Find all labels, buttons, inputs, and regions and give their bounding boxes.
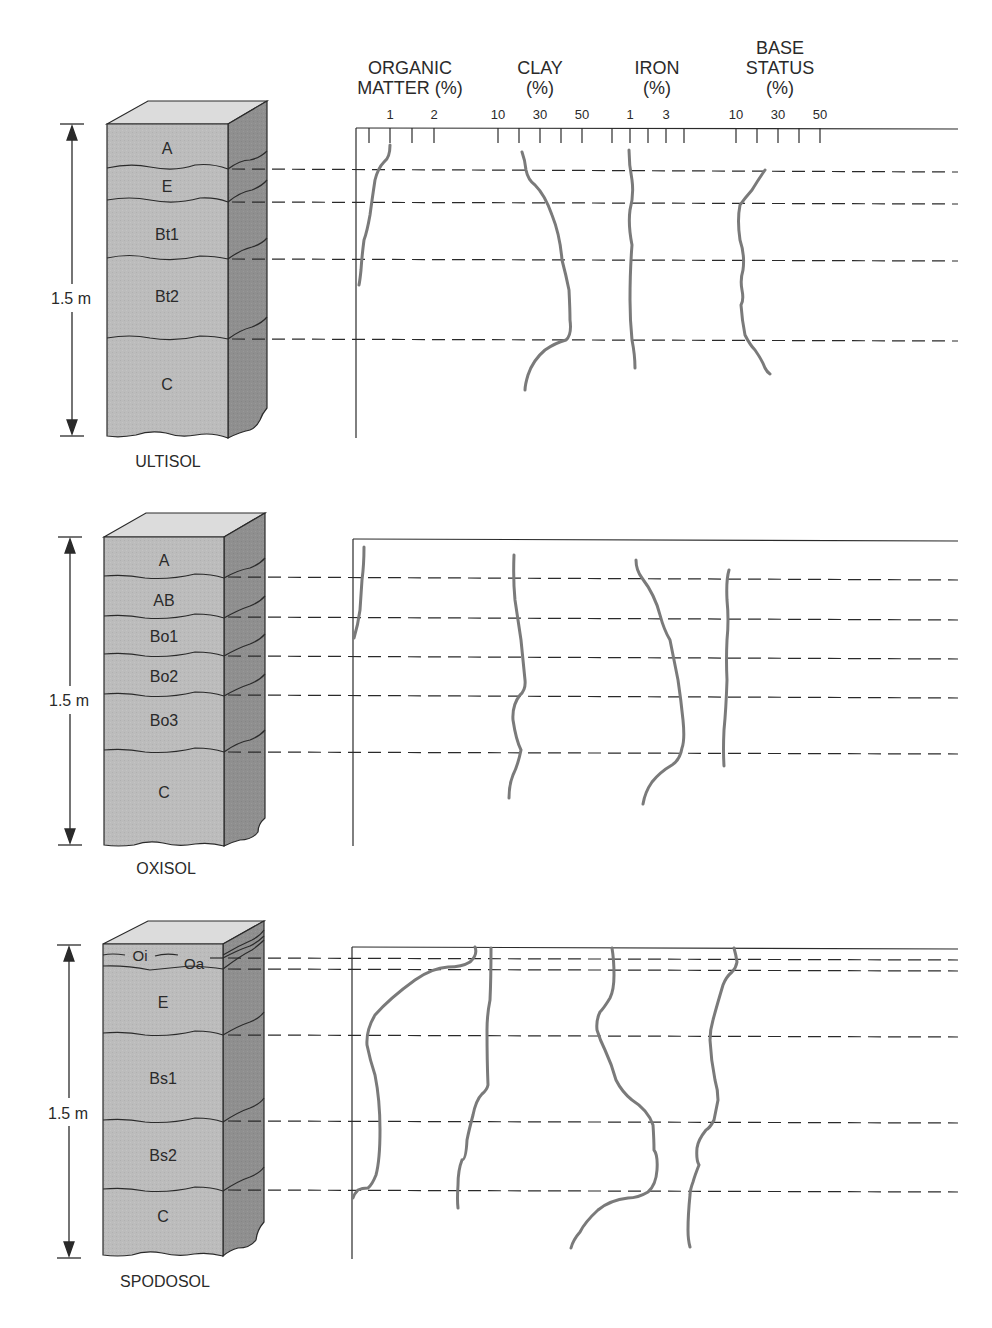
depth-label: 1.5 m [51,290,91,307]
horizon-dashed-lines [232,169,958,341]
depth-label: 1.5 m [49,692,89,709]
curve-iron [629,150,635,368]
curve-organic-matter [354,547,364,638]
property-curves [359,145,770,390]
horizon-label: Oi [133,947,148,964]
horizon-label: Bt1 [155,226,179,243]
horizon-label: Bo3 [150,712,179,729]
side-face [223,921,264,1256]
curve-base-status [688,948,737,1247]
diagram-canvas: A E Bt1 Bt2 C 1.5 m ULTISOL [0,0,992,1328]
ultisol-profile: A E Bt1 Bt2 C 1.5 m ULTISOL [51,101,958,470]
oxisol-profile: A AB Bo1 Bo2 Bo3 C 1.5 m OXISOL [49,513,958,877]
curve-iron [636,560,684,804]
curve-clay [522,152,571,390]
horizon-label: C [158,784,170,801]
depth-scale-arrow [60,124,84,436]
chart-axes [356,128,958,438]
horizon-label: A [159,552,170,569]
curve-base-status [724,570,730,766]
horizon-dashed-lines [228,958,958,1192]
spodosol-profile: Oi Oa E Bs1 Bs2 C 1.5 m SPODOSOL [48,921,958,1290]
horizon-label: C [161,376,173,393]
depth-label: 1.5 m [48,1105,88,1122]
horizon-dashed-lines [228,577,958,754]
curve-clay [509,555,525,798]
depth-scale-arrow [58,537,82,845]
curve-clay [458,948,492,1208]
chart-axes [352,947,958,1259]
horizon-label: C [157,1208,169,1225]
curve-organic-matter [353,947,476,1198]
property-curves [354,547,729,804]
profile-name: SPODOSOL [120,1273,210,1290]
curve-base-status [739,170,771,374]
side-face [228,101,267,438]
property-curves [353,947,737,1248]
horizon-label: E [162,178,173,195]
horizon-label: AB [153,592,174,609]
horizon-label: Bo1 [150,628,179,645]
profile-name: OXISOL [136,860,196,877]
horizon-label: Bo2 [150,668,179,685]
soil-profiles-diagram: ORGANIC MATTER (%) CLAY (%) IRON (%) BAS… [0,0,992,1328]
horizon-label: Oa [184,955,205,972]
horizon-label: Bt2 [155,288,179,305]
horizon-label: E [158,994,169,1011]
depth-scale-arrow [57,945,81,1258]
horizon-label: Bs1 [149,1070,177,1087]
horizon-label: A [162,140,173,157]
horizon-label: Bs2 [149,1147,177,1164]
curve-iron [571,948,657,1248]
chart-axes [353,539,958,846]
profile-name: ULTISOL [135,453,201,470]
curve-organic-matter [359,145,390,285]
